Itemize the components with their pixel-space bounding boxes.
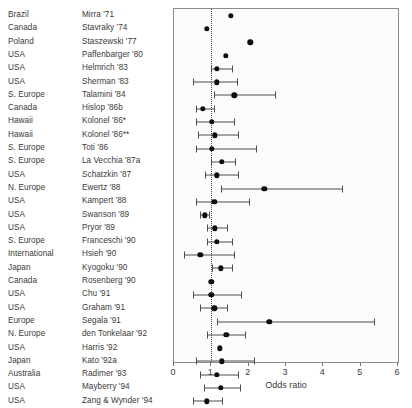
data-row xyxy=(174,89,398,102)
odds-ratio-point-marker xyxy=(209,292,214,297)
study-name-label: Pryor '89 xyxy=(82,221,115,234)
study-label-row: PolandStaszewski '77 xyxy=(0,35,173,48)
data-row xyxy=(174,142,398,155)
study-label-row: USAZang & Wynder '94 xyxy=(0,394,173,407)
study-name-label: Mirra '71 xyxy=(82,8,114,21)
data-row xyxy=(174,76,398,89)
country-label: Hawaii xyxy=(8,114,33,127)
study-label-row: S. EuropeToti '86 xyxy=(0,141,173,154)
ci-cap-low xyxy=(193,291,194,298)
ci-cap-high xyxy=(374,318,375,325)
country-label: Brazil xyxy=(8,8,29,21)
country-label: USA xyxy=(8,168,25,181)
study-label-row: JapanKato '92a xyxy=(0,354,173,367)
data-row xyxy=(174,209,398,222)
odds-ratio-point-marker xyxy=(218,266,223,271)
ci-cap-high xyxy=(234,252,235,259)
study-name-label: Kolonel '86* xyxy=(82,114,126,127)
data-row xyxy=(174,62,398,75)
data-row xyxy=(174,275,398,288)
data-row xyxy=(174,169,398,182)
study-label-row: USAGraham '91 xyxy=(0,301,173,314)
ci-cap-low xyxy=(184,252,185,259)
study-labels-column: BrazilMirra '71CanadaStavraky '74PolandS… xyxy=(0,0,173,397)
ci-cap-high xyxy=(238,172,239,179)
country-label: N. Europe xyxy=(8,327,45,340)
odds-ratio-point-marker xyxy=(214,173,219,178)
odds-ratio-point-marker xyxy=(204,26,209,31)
x-axis-tick xyxy=(360,363,361,366)
country-label: S. Europe xyxy=(8,234,45,247)
ci-cap-low xyxy=(193,398,194,405)
odds-ratio-point-marker xyxy=(202,212,207,217)
confidence-interval-bar xyxy=(198,135,239,136)
x-axis-tick xyxy=(397,363,398,366)
study-label-row: AustraliaRadimer '93 xyxy=(0,367,173,380)
study-label-row: S. EuropeLa Vecchia '87a xyxy=(0,154,173,167)
x-axis-tick-label: 0 xyxy=(170,367,175,377)
odds-ratio-point-marker xyxy=(247,40,252,45)
study-label-row: CanadaStavraky '74 xyxy=(0,21,173,34)
data-row xyxy=(174,262,398,275)
x-axis-tick-label: 2 xyxy=(245,367,250,377)
country-label: USA xyxy=(8,48,25,61)
study-label-row: S. EuropeTalamini '84 xyxy=(0,88,173,101)
study-name-label: Hislop '86b xyxy=(82,101,123,114)
odds-ratio-point-marker xyxy=(217,345,222,350)
odds-ratio-point-marker xyxy=(262,186,267,191)
study-label-row: USAKampert '88 xyxy=(0,194,173,207)
x-axis-tick-label: 5 xyxy=(357,367,362,377)
x-axis-tick-label: 6 xyxy=(394,367,399,377)
odds-ratio-point-marker xyxy=(219,159,224,164)
odds-ratio-point-marker xyxy=(232,93,237,98)
study-label-row: S. EuropeFranceschi '90 xyxy=(0,234,173,247)
study-name-label: Graham '91 xyxy=(82,301,125,314)
ci-cap-high xyxy=(235,158,236,165)
odds-ratio-point-marker xyxy=(200,106,205,111)
odds-ratio-point-marker xyxy=(204,399,209,404)
data-row xyxy=(174,9,398,22)
ci-cap-high xyxy=(249,198,250,205)
ci-cap-low xyxy=(207,225,208,232)
study-name-label: Hsieh '90 xyxy=(82,247,116,260)
ci-cap-high xyxy=(237,79,238,86)
ci-cap-high xyxy=(227,225,228,232)
country-label: Europe xyxy=(8,314,35,327)
study-label-row: USASwanson '89 xyxy=(0,208,173,221)
study-label-row: EuropeSegala '91 xyxy=(0,314,173,327)
ci-cap-low xyxy=(193,79,194,86)
ci-cap-low xyxy=(205,172,206,179)
ci-cap-high xyxy=(209,212,210,219)
ci-cap-low xyxy=(214,92,215,99)
ci-cap-high xyxy=(342,185,343,192)
study-name-label: Zang & Wynder '94 xyxy=(82,394,153,407)
study-label-row: N. EuropeEwertz '88 xyxy=(0,181,173,194)
ci-cap-low xyxy=(196,105,197,112)
study-label-row: N. Europeden Tonkelaar '92 xyxy=(0,327,173,340)
study-name-label: Kolonel '86** xyxy=(82,128,129,141)
study-name-label: Helmrich '83 xyxy=(82,61,128,74)
ci-cap-high xyxy=(222,398,223,405)
study-label-row: JapanKyogoku '90 xyxy=(0,261,173,274)
study-name-label: Radimer '93 xyxy=(82,367,126,380)
confidence-interval-bar xyxy=(217,321,374,322)
ci-cap-high xyxy=(275,92,276,99)
confidence-interval-bar xyxy=(196,122,235,123)
ci-cap-high xyxy=(232,265,233,272)
data-row xyxy=(174,182,398,195)
country-label: USA xyxy=(8,287,25,300)
ci-cap-low xyxy=(196,145,197,152)
ci-cap-high xyxy=(241,291,242,298)
x-axis-tick-label: 1 xyxy=(208,367,213,377)
country-label: International xyxy=(8,247,54,260)
odds-ratio-point-marker xyxy=(223,53,228,58)
study-label-row: USASchatzkin '87 xyxy=(0,168,173,181)
study-name-label: Kyogoku '90 xyxy=(82,261,127,274)
data-row xyxy=(174,49,398,62)
study-label-row: HawaiiKolonel '86** xyxy=(0,128,173,141)
country-label: S. Europe xyxy=(8,88,45,101)
confidence-interval-bar xyxy=(214,95,275,96)
country-label: USA xyxy=(8,301,25,314)
odds-ratio-point-marker xyxy=(214,79,219,84)
x-axis-tick xyxy=(322,363,323,366)
